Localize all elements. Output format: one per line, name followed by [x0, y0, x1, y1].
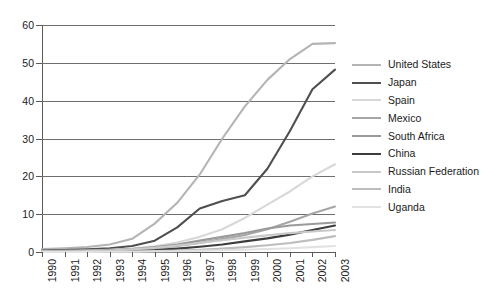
y-tick-label-30: 30: [6, 134, 34, 144]
legend-label: South Africa: [388, 131, 445, 142]
y-tick-mark-40: [36, 101, 42, 102]
y-tick-label-50: 50: [6, 58, 34, 68]
x-tick-label-1999: 1999: [249, 259, 261, 282]
x-tick-mark-1991: [65, 252, 66, 257]
y-tick-mark-0: [36, 252, 42, 253]
legend-item-russian-federation[interactable]: Russian Federation: [352, 163, 490, 181]
y-tick-mark-30: [36, 139, 42, 140]
legend-swatch-icon: [352, 117, 381, 119]
y-tick-label-40: 40: [6, 96, 34, 106]
series-line-spain: [42, 164, 335, 251]
legend-item-india[interactable]: India: [352, 181, 490, 199]
y-axis-labels: 0102030405060: [0, 0, 34, 299]
plot-area: [42, 25, 335, 252]
x-tick-label-1990: 1990: [46, 259, 58, 282]
x-tick-label-2003: 2003: [339, 259, 351, 282]
legend-label: Mexico: [388, 113, 421, 124]
legend-label: United States: [388, 59, 451, 70]
y-tick-label-20: 20: [6, 171, 34, 181]
series-line-japan: [42, 70, 335, 251]
x-tick-mark-1997: [200, 252, 201, 257]
x-tick-label-1994: 1994: [136, 259, 148, 282]
legend-item-united-states[interactable]: United States: [352, 56, 490, 74]
legend-item-japan[interactable]: Japan: [352, 74, 490, 92]
y-tick-mark-60: [36, 25, 42, 26]
legend-label: Spain: [388, 95, 415, 106]
x-tick-mark-1999: [245, 252, 246, 257]
legend-swatch-icon: [352, 82, 381, 84]
x-tick-label-2000: 2000: [271, 259, 283, 282]
x-tick-mark-2000: [267, 252, 268, 257]
y-tick-mark-10: [36, 214, 42, 215]
legend-swatch-icon: [352, 135, 381, 137]
y-tick-mark-50: [36, 63, 42, 64]
x-tick-label-2002: 2002: [316, 259, 328, 282]
x-tick-label-1995: 1995: [159, 259, 171, 282]
x-tick-mark-1996: [177, 252, 178, 257]
x-tick-mark-1993: [110, 252, 111, 257]
y-tick-label-60: 60: [6, 20, 34, 30]
x-tick-label-1997: 1997: [204, 259, 216, 282]
legend-swatch-icon: [352, 206, 381, 208]
x-tick-label-1991: 1991: [69, 259, 81, 282]
legend-swatch-icon: [352, 153, 381, 155]
legend-swatch-icon: [352, 99, 381, 101]
legend-item-uganda[interactable]: Uganda: [352, 198, 490, 216]
line-chart: 0102030405060 19901991199219931994199519…: [0, 0, 490, 299]
x-tick-mark-1998: [222, 252, 223, 257]
x-tick-label-1996: 1996: [181, 259, 193, 282]
legend-item-mexico[interactable]: Mexico: [352, 109, 490, 127]
legend-label: China: [388, 148, 415, 159]
legend-swatch-icon: [352, 64, 381, 66]
x-tick-label-2001: 2001: [294, 259, 306, 282]
x-tick-mark-1995: [155, 252, 156, 257]
x-tick-mark-1990: [42, 252, 43, 257]
legend-label: Japan: [388, 77, 417, 88]
x-tick-mark-2002: [312, 252, 313, 257]
x-tick-mark-1992: [87, 252, 88, 257]
x-tick-mark-1994: [132, 252, 133, 257]
legend-item-spain[interactable]: Spain: [352, 92, 490, 110]
legend-label: Russian Federation: [388, 166, 479, 177]
x-tick-mark-2003: [335, 252, 336, 257]
legend-swatch-icon: [352, 171, 381, 173]
y-tick-label-0: 0: [6, 247, 34, 257]
legend-label: Uganda: [388, 202, 425, 213]
x-tick-label-1992: 1992: [91, 259, 103, 282]
series-lines: [42, 25, 335, 252]
legend-label: India: [388, 184, 411, 195]
x-tick-mark-2001: [290, 252, 291, 257]
y-tick-mark-20: [36, 176, 42, 177]
legend-item-china[interactable]: China: [352, 145, 490, 163]
x-tick-label-1998: 1998: [226, 259, 238, 282]
y-tick-label-10: 10: [6, 209, 34, 219]
legend-item-south-africa[interactable]: South Africa: [352, 127, 490, 145]
chart-legend: United StatesJapanSpainMexicoSouth Afric…: [352, 56, 490, 216]
x-tick-label-1993: 1993: [114, 259, 126, 282]
legend-swatch-icon: [352, 188, 381, 190]
